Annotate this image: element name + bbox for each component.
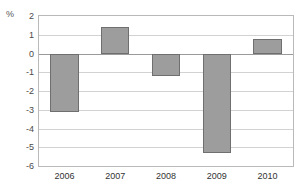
x-tick-label-2009: 2009 bbox=[191, 171, 242, 182]
plot-area bbox=[38, 15, 294, 167]
bar-2010 bbox=[253, 39, 281, 54]
y-tick-label: -4 bbox=[4, 125, 34, 134]
bar-2009 bbox=[203, 54, 231, 153]
y-tick-label: -6 bbox=[4, 162, 34, 171]
gridline--5 bbox=[39, 147, 293, 148]
y-tick-label: -1 bbox=[4, 68, 34, 77]
bar-2006 bbox=[50, 54, 78, 112]
x-tick-label-2007: 2007 bbox=[90, 171, 141, 182]
y-tick-label: 1 bbox=[4, 31, 34, 40]
x-tick-label-2010: 2010 bbox=[242, 171, 293, 182]
y-axis-tick-labels: 210-1-2-3-4-5-6 bbox=[0, 15, 34, 167]
x-tick-label-2008: 2008 bbox=[141, 171, 192, 182]
gridline--4 bbox=[39, 129, 293, 130]
bar-2008 bbox=[152, 54, 180, 77]
x-tick-label-2006: 2006 bbox=[39, 171, 90, 182]
x-axis-tick-labels: 20062007200820092010 bbox=[38, 171, 294, 189]
y-tick-label: -2 bbox=[4, 87, 34, 96]
y-tick-label: -3 bbox=[4, 106, 34, 115]
y-tick-label: 2 bbox=[4, 12, 34, 21]
y-tick-label: 0 bbox=[4, 50, 34, 59]
y-tick-label: -5 bbox=[4, 143, 34, 152]
bar-2007 bbox=[101, 27, 129, 53]
gridline-1 bbox=[39, 35, 293, 36]
bar-chart: % 210-1-2-3-4-5-6 20062007200820092010 bbox=[0, 0, 300, 194]
